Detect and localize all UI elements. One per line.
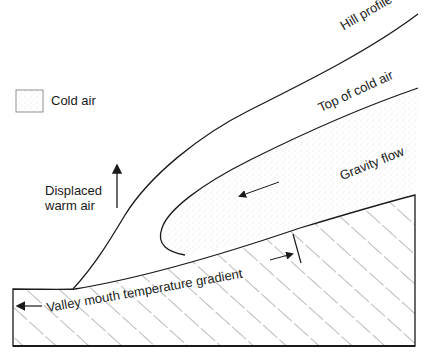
displaced-warm-air-label-2: warm air	[45, 198, 95, 213]
cold-air-legend-swatch	[16, 90, 43, 112]
legend-label: Cold air	[51, 93, 96, 108]
displaced-warm-air-label-1: Displaced	[45, 183, 102, 198]
